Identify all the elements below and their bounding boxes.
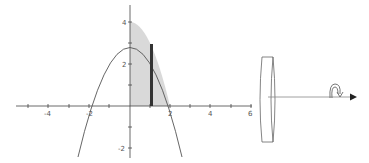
representative-strip: [150, 44, 153, 106]
x-tick-label: 4: [208, 110, 213, 118]
y-tick-label: -2: [118, 145, 125, 153]
arrowhead-icon: [350, 94, 357, 101]
y-tick-label: 2: [122, 61, 126, 69]
rotation-arrow-icon: [330, 84, 343, 98]
x-tick-label: 6: [248, 110, 253, 118]
volume-of-revolution-diagram: -4 -2 2 4 6 4 2 -2: [0, 0, 369, 163]
disk: [260, 57, 275, 142]
y-tick-label: 4: [122, 19, 127, 27]
x-tick-label: -4: [44, 110, 52, 118]
